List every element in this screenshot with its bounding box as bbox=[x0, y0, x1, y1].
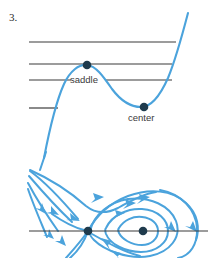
separatrix-in-2 bbox=[29, 176, 72, 222]
center-equilibrium-dot bbox=[139, 227, 148, 236]
separatrix-in-4 bbox=[28, 189, 47, 237]
center-label: center bbox=[128, 113, 154, 123]
phase-plane-figure bbox=[0, 0, 218, 258]
separatrix-in-5 bbox=[30, 170, 156, 212]
arrow-upper-right-1 bbox=[91, 193, 104, 203]
saddle-equilibrium-dot bbox=[84, 227, 93, 236]
center-dot bbox=[140, 103, 149, 112]
potential-points-group bbox=[83, 61, 149, 112]
arrow-orbit-lower-left bbox=[110, 250, 121, 258]
phase-portrait-group bbox=[28, 152, 198, 258]
arrow-orbit-outer-right-down bbox=[185, 221, 197, 232]
arrow-down-left-2 bbox=[55, 235, 66, 246]
orbit-outer bbox=[90, 198, 178, 256]
curve-tail-stub bbox=[40, 152, 46, 170]
separatrix-out-down-1 bbox=[66, 231, 88, 258]
saddle-dot bbox=[83, 61, 92, 70]
potential-curve-group bbox=[44, 13, 188, 158]
saddle-label: saddle bbox=[70, 75, 98, 85]
potential-curve bbox=[44, 13, 188, 158]
